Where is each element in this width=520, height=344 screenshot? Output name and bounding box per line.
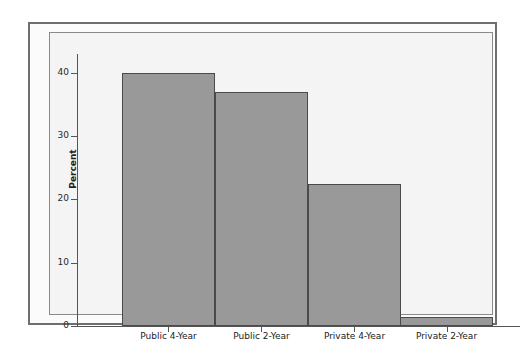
- bar: [308, 184, 401, 326]
- x-axis-line: [77, 326, 520, 327]
- y-tick-mark: [71, 73, 77, 74]
- y-tick-mark: [71, 136, 77, 137]
- y-tick-label: 40: [45, 68, 69, 77]
- y-tick-mark: [71, 263, 77, 264]
- y-tick-label-wrap: 0: [42, 321, 69, 330]
- y-tick-label: 0: [45, 321, 69, 330]
- y-tick-label-wrap: 10: [42, 258, 69, 267]
- y-tick-label-wrap: 30: [42, 131, 69, 140]
- y-tick-label: 30: [45, 131, 69, 140]
- x-axis-category-label: Public 2-Year: [215, 331, 308, 341]
- bar: [122, 73, 215, 326]
- x-axis-category-label: Private 2-Year: [400, 331, 493, 341]
- y-tick-mark: [71, 199, 77, 200]
- bar: [400, 317, 493, 326]
- x-axis-category-label: Private 4-Year: [308, 331, 401, 341]
- x-axis-category-label: Public 4-Year: [122, 331, 215, 341]
- y-axis-title: Percent: [68, 149, 78, 188]
- y-axis-line: [77, 54, 78, 326]
- y-tick-label-wrap: 40: [42, 68, 69, 77]
- y-tick-label: 10: [45, 258, 69, 267]
- bar: [215, 92, 308, 326]
- chart-outer-frame: Percent 010203040 Public 4-YearPublic 2-…: [28, 22, 497, 325]
- y-tick-label: 20: [45, 194, 69, 203]
- y-tick-mark: [71, 326, 77, 327]
- y-tick-label-wrap: 20: [42, 194, 69, 203]
